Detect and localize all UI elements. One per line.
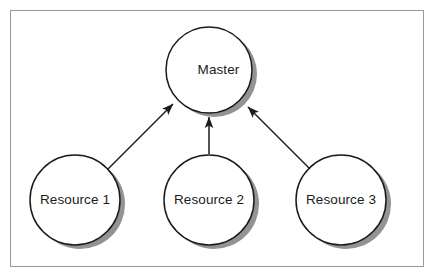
edge-resource1-master (108, 104, 173, 169)
node-label-resource1: Resource 1 (0, 193, 150, 207)
diagram-canvas (0, 0, 437, 279)
node-label-resource2: Resource 2 (134, 193, 284, 207)
node-label-resource3: Resource 3 (266, 193, 416, 207)
node-bodies (30, 27, 386, 245)
diagram-root: Master Resource 1 Resource 2 Resource 3 (0, 0, 437, 279)
node-label-master: Master (0, 63, 437, 77)
edge-resource3-master (248, 107, 310, 169)
